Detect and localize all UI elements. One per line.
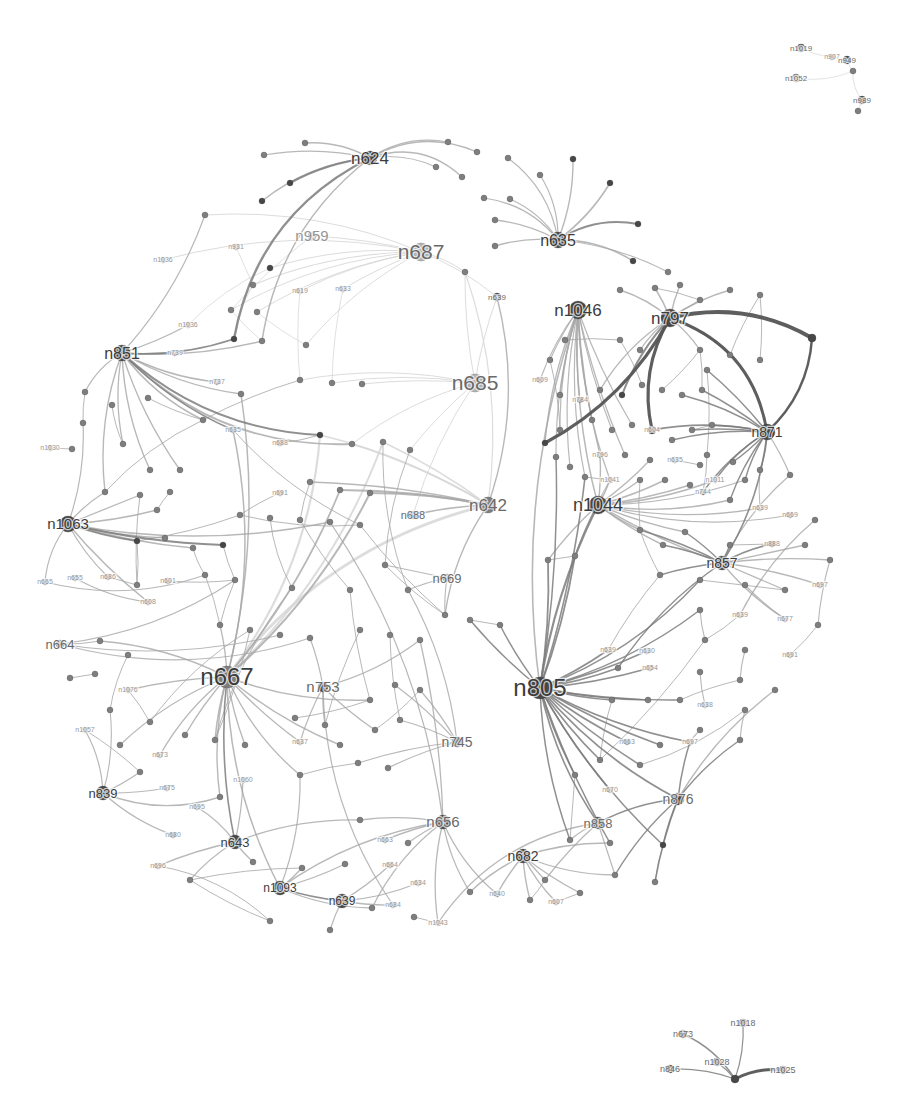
graph-node-m154[interactable] <box>645 697 651 703</box>
graph-node-m178[interactable] <box>567 464 573 470</box>
graph-node-m81[interactable] <box>67 675 73 681</box>
graph-node-m22[interactable] <box>250 282 256 288</box>
graph-node-n1046[interactable] <box>569 301 587 319</box>
graph-node-n871[interactable] <box>759 424 775 440</box>
graph-node-m173[interactable] <box>647 457 653 463</box>
graph-node-n851[interactable] <box>114 345 130 361</box>
graph-node-m73[interactable] <box>277 632 283 638</box>
graph-node-n667[interactable] <box>216 666 238 688</box>
graph-node-m124[interactable] <box>704 452 710 458</box>
graph-node-m13[interactable] <box>481 195 487 201</box>
graph-node-n639r[interactable] <box>757 505 763 511</box>
graph-node-m55[interactable] <box>337 487 343 493</box>
graph-node-n639s[interactable] <box>493 293 501 301</box>
graph-node-m128[interactable] <box>727 497 733 503</box>
graph-node-m106[interactable] <box>299 865 305 871</box>
graph-node-m108[interactable] <box>411 914 417 920</box>
graph-node-n609[interactable] <box>537 377 543 383</box>
graph-node-n1076[interactable] <box>125 687 131 693</box>
graph-node-m191[interactable] <box>757 292 763 298</box>
graph-node-m41[interactable] <box>200 417 206 423</box>
graph-node-n619[interactable] <box>297 288 303 294</box>
graph-node-m71[interactable] <box>217 622 223 628</box>
graph-node-n931[interactable] <box>233 244 239 250</box>
graph-node-m135[interactable] <box>782 587 788 593</box>
graph-node-m160[interactable] <box>597 387 603 393</box>
graph-node-m48[interactable] <box>167 489 173 495</box>
graph-node-m147[interactable] <box>660 542 666 548</box>
graph-node-m11[interactable] <box>537 172 543 178</box>
graph-node-n656[interactable] <box>436 815 450 829</box>
graph-node-m190[interactable] <box>727 287 733 293</box>
graph-node-n691r[interactable] <box>787 652 793 658</box>
graph-node-m4[interactable] <box>259 198 265 204</box>
graph-node-m132[interactable] <box>827 557 833 563</box>
graph-node-m19[interactable] <box>665 269 671 275</box>
graph-node-n1036b[interactable] <box>185 322 191 328</box>
graph-node-n669[interactable] <box>443 574 451 582</box>
graph-node-m113[interactable] <box>527 897 533 903</box>
graph-node-m140[interactable] <box>697 669 703 675</box>
graph-node-n839[interactable] <box>96 786 110 800</box>
graph-node-m66[interactable] <box>347 587 353 593</box>
graph-node-m24[interactable] <box>254 309 260 315</box>
graph-node-m79[interactable] <box>467 617 473 623</box>
graph-node-m152[interactable] <box>615 665 621 671</box>
graph-node-m150[interactable] <box>572 553 578 559</box>
graph-node-m54[interactable] <box>307 479 313 485</box>
graph-node-m29[interactable] <box>303 342 309 348</box>
graph-node-n624[interactable] <box>363 151 377 165</box>
graph-node-n858[interactable] <box>592 817 604 829</box>
graph-node-m21[interactable] <box>267 265 273 271</box>
graph-node-m137[interactable] <box>815 622 821 628</box>
graph-node-n1044[interactable] <box>589 496 607 514</box>
graph-node-n601[interactable] <box>165 578 171 584</box>
graph-node-m65[interactable] <box>289 585 295 591</box>
graph-node-m102[interactable] <box>187 877 193 883</box>
graph-node-n1036a[interactable] <box>160 257 166 263</box>
graph-node-m89[interactable] <box>292 715 298 721</box>
graph-node-m14[interactable] <box>507 196 513 202</box>
graph-node-m110[interactable] <box>267 918 273 924</box>
graph-node-n684[interactable] <box>390 902 396 908</box>
graph-node-m75[interactable] <box>357 627 363 633</box>
graph-node-m175[interactable] <box>557 427 563 433</box>
graph-node-m20[interactable] <box>202 212 208 218</box>
graph-node-m123[interactable] <box>572 772 578 778</box>
graph-node-m61[interactable] <box>357 522 363 528</box>
graph-node-m184[interactable] <box>617 337 623 343</box>
graph-node-m57[interactable] <box>237 512 243 518</box>
graph-node-n1028[interactable] <box>713 1058 721 1066</box>
graph-node-m26[interactable] <box>231 336 237 342</box>
graph-node-m133[interactable] <box>697 577 703 583</box>
graph-node-m167[interactable] <box>609 427 615 433</box>
graph-node-m116[interactable] <box>567 837 573 843</box>
graph-node-m3[interactable] <box>287 180 293 186</box>
graph-node-m67[interactable] <box>405 587 411 593</box>
graph-node-tr2[interactable] <box>855 108 861 114</box>
graph-node-n635s[interactable] <box>230 427 236 433</box>
graph-node-m180[interactable] <box>637 477 643 483</box>
graph-node-n686[interactable] <box>105 574 111 580</box>
graph-node-n1052[interactable] <box>792 74 800 82</box>
graph-node-m153[interactable] <box>609 697 615 703</box>
graph-node-m170[interactable] <box>689 427 695 433</box>
graph-node-n697b[interactable] <box>687 739 693 745</box>
graph-node-m119[interactable] <box>612 872 618 878</box>
graph-node-m49[interactable] <box>134 538 140 544</box>
graph-node-n670[interactable] <box>607 787 613 793</box>
graph-node-bc0[interactable] <box>731 1075 739 1083</box>
graph-node-n1030[interactable] <box>47 445 53 451</box>
graph-node-m7[interactable] <box>433 164 439 170</box>
graph-node-m174[interactable] <box>697 462 703 468</box>
graph-node-m182[interactable] <box>687 482 693 488</box>
graph-node-m192[interactable] <box>617 287 623 293</box>
graph-node-m96[interactable] <box>417 687 423 693</box>
graph-node-n608[interactable] <box>145 599 151 605</box>
graph-node-m56[interactable] <box>367 490 373 496</box>
graph-node-n673[interactable] <box>679 1030 687 1038</box>
graph-node-m58[interactable] <box>267 515 273 521</box>
graph-node-m144[interactable] <box>697 727 703 733</box>
graph-node-m62[interactable] <box>134 582 140 588</box>
graph-node-n635r[interactable] <box>672 457 678 463</box>
